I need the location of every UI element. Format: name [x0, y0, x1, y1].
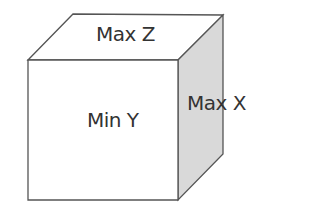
side-face-label: Max X — [187, 93, 246, 113]
front-face-label: Min Y — [87, 110, 139, 130]
top-face-label: Max Z — [96, 24, 155, 44]
